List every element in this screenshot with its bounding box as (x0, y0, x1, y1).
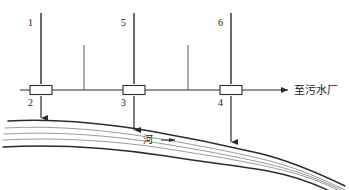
river-flowline-1 (5, 127, 345, 190)
label-node-4: 4 (218, 97, 223, 108)
junction-box-3[interactable] (123, 86, 145, 95)
river-bank-top (8, 120, 345, 186)
branch-lines-group (84, 45, 188, 90)
junction-box-2[interactable] (30, 86, 52, 95)
label-node-3: 3 (121, 97, 126, 108)
diagram-canvas: 河 1 5 6 (0, 0, 349, 190)
schematic-drawing: 河 1 5 6 (0, 0, 349, 190)
river-label: 河 (143, 134, 153, 145)
label-outfall-5: 5 (121, 17, 126, 28)
outfall-pipes-group (41, 13, 231, 142)
labels-group: 1 5 6 2 3 4 至污水厂 (28, 17, 338, 108)
label-node-2: 2 (28, 97, 33, 108)
label-outfall-6: 6 (218, 17, 223, 28)
junction-box-4[interactable] (220, 86, 242, 95)
river-group: 河 (3, 120, 345, 190)
label-outfall-1: 1 (28, 17, 33, 28)
label-destination-plant: 至污水厂 (294, 84, 338, 97)
